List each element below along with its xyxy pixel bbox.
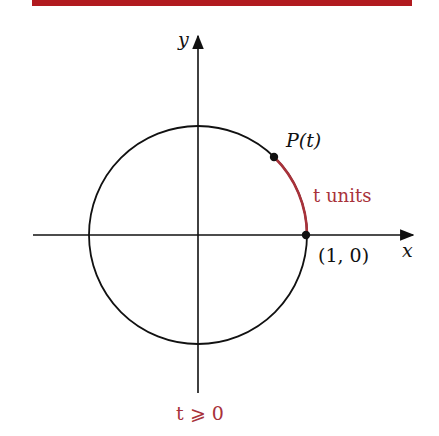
point-1-0-label: (1, 0) — [318, 246, 369, 265]
arc-t-units — [274, 157, 307, 235]
point-p-t-label: P(t) — [286, 131, 321, 150]
x-axis-label: x — [402, 241, 413, 260]
y-axis-label: y — [178, 30, 189, 49]
arc-length-label: t units — [313, 187, 371, 205]
condition-label: t ⩾ 0 — [176, 404, 224, 423]
point-1-0 — [302, 231, 310, 239]
point-p-t — [270, 153, 278, 161]
unit-circle-diagram — [0, 0, 439, 436]
